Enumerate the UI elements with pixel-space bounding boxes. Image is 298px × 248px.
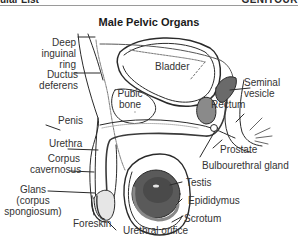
label-bulbourethral-gland: Bulbourethral gland bbox=[202, 160, 289, 171]
label-glans: Glans (corpus spongiosum) bbox=[4, 184, 62, 217]
label-urethra: Urethra bbox=[49, 138, 82, 149]
label-line: (corpus bbox=[4, 195, 62, 206]
label-seminal-vesicle: Seminal vesicle bbox=[244, 77, 280, 99]
label-line: cavernosus bbox=[30, 164, 80, 175]
label-line: Ductus bbox=[38, 69, 78, 80]
label-epididymus: Epididymus bbox=[188, 195, 240, 206]
label-testis: Testis bbox=[186, 177, 212, 188]
label-line: deferens bbox=[38, 80, 78, 91]
label-line: inguinal bbox=[34, 48, 76, 59]
label-prostate: Prostate bbox=[220, 144, 257, 155]
label-bladder: Bladder bbox=[155, 61, 189, 72]
label-scrotum: Scrotum bbox=[184, 213, 221, 224]
label-line: vesicle bbox=[244, 88, 280, 99]
label-line: Deep bbox=[48, 37, 76, 48]
label-pubic-bone: Pubic bone bbox=[116, 88, 144, 110]
label-line: Seminal bbox=[244, 77, 280, 88]
label-foreskin: Foreskin bbox=[73, 218, 111, 229]
label-deep-inguinal-ring: Deep inguinal ring bbox=[48, 37, 76, 70]
label-line: Pubic bbox=[116, 88, 144, 99]
label-rectum: Rectum bbox=[211, 99, 245, 110]
label-urethral-orifice: Urethral orifice bbox=[123, 225, 188, 236]
label-ductus-deferens: Ductus deferens bbox=[38, 69, 78, 91]
label-line: spongiosum) bbox=[4, 206, 62, 217]
label-line: bone bbox=[116, 99, 144, 110]
label-line: Glans bbox=[4, 184, 62, 195]
label-line: Corpus bbox=[30, 153, 80, 164]
label-penis: Penis bbox=[58, 115, 83, 126]
label-corpus-cavernosus: Corpus cavernosus bbox=[30, 153, 80, 175]
